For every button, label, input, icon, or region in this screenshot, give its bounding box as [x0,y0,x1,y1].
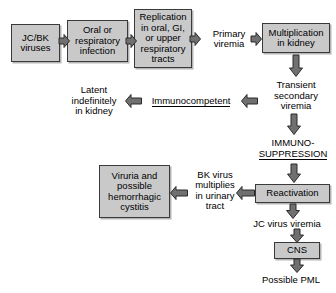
arrow-transient-to-immunocompetent [241,94,258,108]
arrow-replication-to-primary-viremia [190,32,201,46]
arrow-reactivation-to-jc-viremia [286,204,300,219]
label-jc-virus-viremia: JC virus viremia [240,218,334,231]
node-multiplication-kidney: Multiplication in kidney [262,23,330,53]
node-replication-tracts: Replication in oral, GI, or upper respir… [134,9,192,68]
node-reactivation: Reactivation [255,184,330,203]
arrow-transient-to-immunosuppression [287,114,301,135]
node-label: JC/BK viruses [20,33,50,54]
node-label: Viruria and possible hemorrhagic cystiti… [108,171,161,213]
node-oral-respiratory-infection: Oral or respiratory infection [67,20,128,62]
node-cns: CNS [274,242,320,259]
arrow-primary-viremia-to-multiplication [251,32,262,46]
arrow-viruses-to-infection [59,34,70,48]
node-label: CNS [287,245,307,256]
label-latent-in-kidney: Latent indefinitely in kidney [63,84,125,118]
flowchart-diagram: JC/BK viruses Oral or respiratory infect… [0,0,336,293]
arrow-multiplication-to-transient [289,55,303,77]
node-jc-bk-viruses: JC/BK viruses [11,24,60,62]
label-possible-pml: Possible PML [249,274,333,287]
arrow-infection-to-replication [126,34,137,48]
label-immunocompetent: Immunocompetent [143,95,239,108]
arrow-jc-viremia-to-cns [290,229,304,243]
arrow-reactivation-to-bk-urinary [236,186,255,200]
label-primary-viremia: Primary viremia [201,27,257,51]
label-transient-secondary-viremia: Transient secondary viremia [261,79,331,113]
arrow-immunocompetent-to-latent [125,94,142,108]
node-viruria-cystitis: Viruria and possible hemorrhagic cystiti… [99,165,170,218]
arrow-immunosuppression-to-reactivation [287,164,301,183]
node-label: Reactivation [266,188,318,199]
arrow-cns-to-pml [290,259,304,273]
node-label: Oral or respiratory infection [75,25,120,57]
node-label: Multiplication in kidney [269,28,324,49]
node-label: Replication in oral, GI, or upper respir… [140,12,187,65]
label-immunosuppression: IMMUNO- SUPPRESSION [254,137,332,161]
arrow-bk-urinary-to-viruria [170,186,188,200]
